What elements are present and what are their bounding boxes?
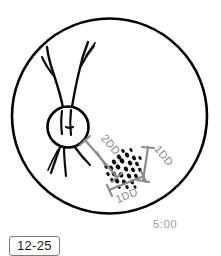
fundus-drawing-canvas: 2DD 1DD 1DD 5:00 12-25 <box>0 0 221 256</box>
status-badge: 12-25 <box>9 236 60 256</box>
fundus-diagram-svg: 2DD 1DD 1DD 5:00 <box>0 0 221 256</box>
clock-hour-label: 5:00 <box>153 218 177 230</box>
fundus-boundary-circle <box>12 19 207 214</box>
status-badge-text: 12-25 <box>17 238 52 253</box>
